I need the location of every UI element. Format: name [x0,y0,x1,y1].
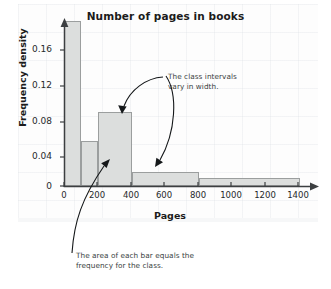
annotation-bar-area-line1: The area of each bar equals the [76,251,236,261]
callout-arrowhead-1 [118,105,126,114]
annotation-class-intervals-line2: vary in width. [168,82,263,92]
x-axis-ticks [64,182,298,186]
annotation-class-intervals: The class intervals vary in width. [168,72,263,91]
y-axis-arrowhead [61,18,69,27]
callout-arrowhead-2 [155,158,163,167]
annotation-class-intervals-line1: The class intervals [168,72,263,82]
annotation-bar-area: The area of each bar equals the frequenc… [76,251,236,270]
x-axis-arrowhead [310,183,319,191]
callout-arrowhead-3 [101,159,110,168]
callout-arrow-class-intervals-left [124,77,163,106]
annotation-bar-area-line2: frequency for the class. [76,261,236,271]
y-axis-ticks [60,50,64,186]
chart-axes-and-callouts [0,0,331,289]
callout-arrow-bar-area [72,166,104,253]
